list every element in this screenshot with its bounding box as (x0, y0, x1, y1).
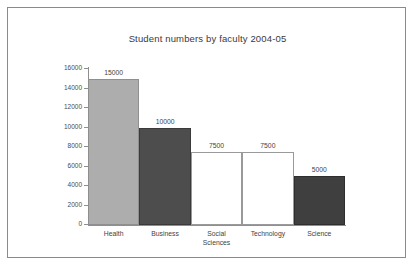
category-label-business: Business (139, 230, 190, 239)
x-axis-line (88, 225, 346, 226)
y-axis-tick-label: 14000 (64, 84, 82, 92)
bar-value-label: 5000 (294, 166, 345, 174)
y-axis-tick-label: 4000 (68, 181, 82, 189)
bar-value-label: 7500 (242, 142, 293, 150)
y-axis-tick-label: 0 (78, 220, 82, 228)
chart-figure: Student numbers by faculty 2004-05 02000… (0, 0, 415, 267)
bar-health (88, 79, 139, 225)
bar-value-label: 10000 (139, 118, 190, 126)
y-axis-tick-label: 10000 (64, 123, 82, 131)
y-axis-tick-label: 16000 (64, 64, 82, 72)
bar-business (139, 128, 190, 226)
category-label-technology: Technology (242, 230, 293, 239)
category-label-health: Health (88, 230, 139, 239)
bar-social-sciences (191, 152, 242, 225)
bar-value-label: 15000 (88, 69, 139, 77)
bar-science (294, 176, 345, 225)
y-axis-tick-label: 8000 (68, 142, 82, 150)
y-axis-tick-label: 6000 (68, 162, 82, 170)
bar-technology (242, 152, 293, 225)
y-axis-tick-label: 12000 (64, 103, 82, 111)
y-axis-tick-label: 2000 (68, 201, 82, 209)
category-label-science: Science (294, 230, 345, 239)
category-label-social-sciences: Social Sciences (191, 230, 242, 247)
bar-value-label: 7500 (191, 142, 242, 150)
chart-title: Student numbers by faculty 2004-05 (0, 33, 415, 44)
